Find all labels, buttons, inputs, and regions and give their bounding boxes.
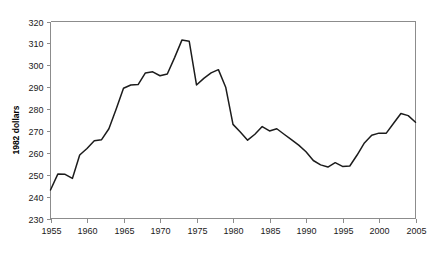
y-tick-label: 290 — [28, 83, 43, 93]
y-tick-label: 270 — [28, 127, 43, 137]
x-tick-label: 1990 — [296, 226, 316, 236]
y-tick-label: 300 — [28, 61, 43, 71]
x-tick-label: 2000 — [369, 226, 389, 236]
axis-frame-top-right — [51, 22, 416, 219]
axis-frame — [51, 22, 416, 219]
axis-spines — [51, 22, 416, 219]
x-tick-label: 1985 — [260, 226, 280, 236]
x-tick-label: 1965 — [114, 226, 134, 236]
y-tick-label: 260 — [28, 149, 43, 159]
y-axis-title: 1982 dollars — [11, 105, 21, 154]
y-axis-tick-labels: 230240250260270280290300310320 — [28, 18, 43, 225]
x-tick-label: 1970 — [150, 226, 170, 236]
x-tick-label: 2005 — [406, 226, 426, 236]
data-line-series — [51, 40, 416, 190]
data-series-group — [51, 40, 416, 190]
line-chart: 1955196019651970197519801985199019952000… — [0, 0, 439, 261]
x-tick-label: 1955 — [41, 226, 61, 236]
x-tick-label: 1960 — [77, 226, 97, 236]
y-tick-label: 250 — [28, 171, 43, 181]
y-tick-label: 280 — [28, 105, 43, 115]
x-axis-ticks — [52, 219, 417, 223]
x-tick-label: 1980 — [223, 226, 243, 236]
x-axis-tick-labels: 1955196019651970197519801985199019952000… — [41, 226, 426, 236]
y-tick-label: 310 — [28, 39, 43, 49]
x-tick-label: 1975 — [187, 226, 207, 236]
y-tick-label: 320 — [28, 18, 43, 28]
y-tick-label: 240 — [28, 193, 43, 203]
x-tick-label: 1995 — [333, 226, 353, 236]
chart-figure: 1955196019651970197519801985199019952000… — [0, 0, 439, 261]
y-tick-label: 230 — [28, 215, 43, 225]
